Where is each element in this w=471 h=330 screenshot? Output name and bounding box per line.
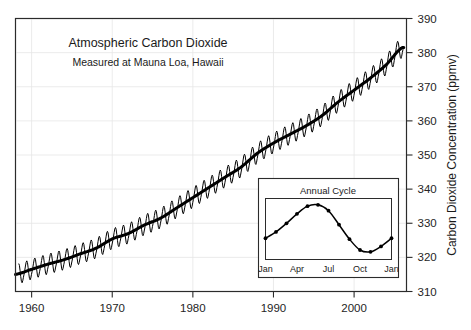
inset-annual-cycle: Annual Cycle JanAprJulOctJan (258, 179, 399, 278)
y-tick-label: 360 (418, 115, 437, 127)
inset-data-point (327, 209, 331, 213)
inset-plot-frame (266, 199, 392, 260)
x-tick-label: 1980 (180, 302, 206, 314)
inset-data-point (358, 248, 362, 252)
y-tick-label: 390 (418, 13, 437, 25)
inset-data-point (337, 223, 341, 227)
chart-figure: 310320330340350360370380390 196019701980… (0, 0, 471, 330)
chart-subtitle: Measured at Mauna Loa, Hawaii (72, 56, 223, 68)
inset-data-point (348, 237, 352, 241)
inset-data-point (274, 230, 278, 234)
chart-title: Atmospheric Carbon Dioxide (68, 36, 227, 50)
y-axis-tick-labels: 310320330340350360370380390 (418, 13, 437, 298)
inset-month-label: Apr (290, 264, 304, 274)
inset-title: Annual Cycle (300, 185, 356, 196)
inset-data-point (306, 204, 310, 208)
inset-month-label: Jul (323, 264, 335, 274)
y-tick-label: 330 (418, 217, 437, 229)
y-axis-title: Carbon Dioxide Concentration (ppmv) (445, 54, 459, 255)
inset-month-label: Jan (384, 264, 399, 274)
y-tick-label: 320 (418, 251, 437, 263)
y-tick-label: 380 (418, 47, 437, 59)
x-tick-label: 1970 (99, 302, 125, 314)
y-tick-label: 350 (418, 149, 437, 161)
inset-data-point (390, 236, 394, 240)
x-tick-label: 2000 (341, 302, 367, 314)
inset-data-point (369, 250, 373, 254)
inset-data-point (316, 203, 320, 207)
inset-data-point (295, 212, 299, 216)
inset-data-point (264, 236, 268, 240)
keeling-curve-chart: 310320330340350360370380390 196019701980… (0, 0, 471, 330)
inset-month-label: Oct (353, 264, 368, 274)
inset-data-point (379, 245, 383, 249)
y-tick-label: 340 (418, 183, 437, 195)
inset-data-point (285, 221, 289, 225)
x-tick-label: 1960 (19, 302, 45, 314)
x-tick-label: 1990 (261, 302, 287, 314)
inset-month-label: Jan (258, 264, 273, 274)
y-tick-label: 370 (418, 81, 437, 93)
y-tick-label: 310 (418, 286, 437, 298)
